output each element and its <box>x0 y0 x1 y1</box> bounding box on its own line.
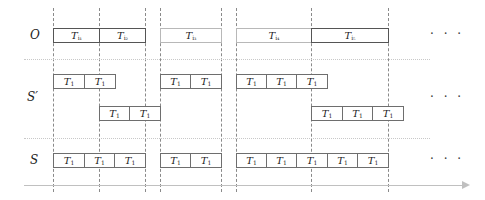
task-label: T <box>246 76 253 87</box>
row-label-s: S <box>30 153 38 167</box>
task-box: T1 <box>372 106 404 121</box>
row-separator <box>24 59 430 60</box>
task-subscript: i₅ <box>351 34 355 41</box>
task-box: T1 <box>99 106 130 121</box>
task-box: T1 <box>266 74 297 89</box>
task-box: T1 <box>357 153 389 168</box>
row-label-s-prime: S′ <box>27 90 38 104</box>
task-box: T1 <box>296 153 328 168</box>
task-label: T <box>322 108 329 119</box>
task-label: T <box>246 155 253 166</box>
task-subscript: 1 <box>70 159 74 166</box>
task-subscript: i₂ <box>124 34 128 41</box>
task-label: T <box>345 30 352 41</box>
task-box: T1 <box>190 153 222 168</box>
task-subscript: 1 <box>359 112 363 119</box>
task-label: T <box>276 155 283 166</box>
task-label: T <box>109 108 116 119</box>
task-subscript: 1 <box>328 112 332 119</box>
task-label: T <box>94 155 101 166</box>
task-label: T <box>337 155 344 166</box>
task-box: Ti₁ <box>53 28 100 43</box>
task-subscript: 1 <box>177 80 181 87</box>
task-subscript: 1 <box>283 159 287 166</box>
task-box: T1 <box>190 74 222 89</box>
task-label: T <box>64 155 71 166</box>
task-subscript: 1 <box>177 159 181 166</box>
task-subscript: 1 <box>253 159 257 166</box>
task-box: T1 <box>342 106 373 121</box>
task-box: T1 <box>266 153 297 168</box>
task-subscript: 1 <box>146 112 150 119</box>
task-label: T <box>95 76 102 87</box>
task-box: T1 <box>236 74 267 89</box>
task-label: T <box>269 30 276 41</box>
task-subscript: 1 <box>374 159 378 166</box>
task-box: T1 <box>327 153 358 168</box>
arrow-right-icon <box>462 181 470 189</box>
task-label: T <box>276 76 283 87</box>
task-label: T <box>71 30 78 41</box>
task-box: T1 <box>296 74 328 89</box>
task-subscript: 1 <box>313 159 317 166</box>
task-subscript: i₄ <box>275 34 279 41</box>
ellipsis-s: · · · <box>430 152 464 166</box>
task-box: T1 <box>236 153 267 168</box>
task-box: T1 <box>84 74 116 89</box>
task-label: T <box>383 108 390 119</box>
task-subscript: 1 <box>283 80 287 87</box>
task-box: Ti₂ <box>99 28 146 43</box>
task-subscript: 1 <box>389 112 393 119</box>
ellipsis-o: · · · <box>430 27 464 41</box>
task-box: T1 <box>311 106 343 121</box>
task-subscript: 1 <box>101 159 105 166</box>
task-label: T <box>125 155 132 166</box>
task-box: T1 <box>114 153 146 168</box>
ellipsis-s-prime: · · · <box>430 90 464 104</box>
task-subscript: i₁ <box>78 34 82 41</box>
time-axis <box>24 185 464 186</box>
task-subscript: 1 <box>116 112 120 119</box>
task-box: T1 <box>84 153 115 168</box>
task-subscript: 1 <box>313 80 317 87</box>
task-label: T <box>201 155 208 166</box>
row-label-o: O <box>30 28 40 42</box>
task-label: T <box>170 76 177 87</box>
task-box: T1 <box>129 106 161 121</box>
task-subscript: 1 <box>131 159 135 166</box>
task-box: T1 <box>53 74 85 89</box>
task-label: T <box>307 76 314 87</box>
task-label: T <box>368 155 375 166</box>
task-subscript: 1 <box>101 80 105 87</box>
task-subscript: 1 <box>70 80 74 87</box>
task-label: T <box>64 76 71 87</box>
task-label: T <box>186 30 193 41</box>
task-label: T <box>307 155 314 166</box>
task-box: T1 <box>160 153 191 168</box>
task-subscript: i₃ <box>192 34 196 41</box>
task-subscript: 1 <box>344 159 348 166</box>
task-label: T <box>117 30 124 41</box>
task-label: T <box>201 76 208 87</box>
task-label: T <box>140 108 147 119</box>
schedule-diagram: O S′ S Ti₁Ti₂Ti₃Ti₄Ti₅ T1T1T1T1T1T1T1 T1… <box>0 0 485 200</box>
task-label: T <box>352 108 359 119</box>
row-separator <box>24 138 430 139</box>
task-subscript: 1 <box>253 80 257 87</box>
task-label: T <box>170 155 177 166</box>
task-box: Ti₄ <box>236 28 312 43</box>
task-box: Ti₃ <box>160 28 222 43</box>
task-box: Ti₅ <box>311 28 389 43</box>
task-box: T1 <box>53 153 85 168</box>
task-subscript: 1 <box>207 159 211 166</box>
task-subscript: 1 <box>207 80 211 87</box>
task-box: T1 <box>160 74 191 89</box>
